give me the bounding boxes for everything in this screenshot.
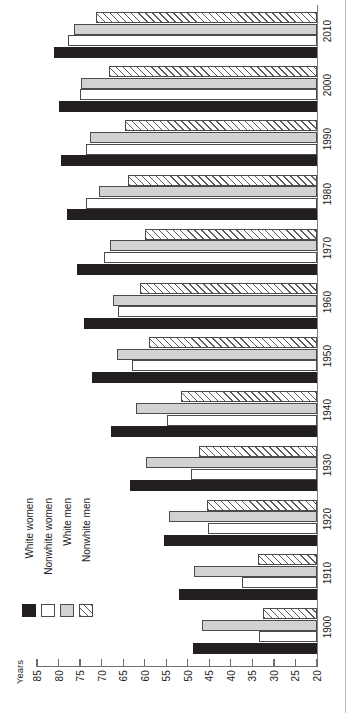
legend-swatch-white_men bbox=[60, 604, 74, 617]
value-axis-tick-label: 50 bbox=[183, 670, 194, 682]
bar-nonwhite_women-1960 bbox=[118, 306, 317, 317]
value-axis-tick bbox=[252, 659, 253, 667]
category-axis-label-1990: 1990 bbox=[322, 128, 333, 150]
bar-white_men-2010 bbox=[74, 24, 317, 35]
value-axis-tick bbox=[295, 659, 296, 667]
bar-nonwhite_men-1990 bbox=[125, 120, 317, 131]
bar-nonwhite_women-1970 bbox=[104, 252, 317, 263]
value-axis-tick bbox=[230, 659, 231, 667]
bar-white_men-1920 bbox=[169, 511, 317, 522]
bar-white_women-2000 bbox=[59, 101, 317, 112]
bar-white_women-1930 bbox=[130, 480, 317, 491]
category-axis-label-1980: 1980 bbox=[322, 183, 333, 205]
bar-nonwhite_men-2010 bbox=[96, 12, 317, 23]
value-axis-tick bbox=[316, 659, 317, 667]
bar-white_women-1950 bbox=[92, 372, 317, 383]
legend-swatch-nonwhite_men bbox=[79, 604, 93, 617]
bar-nonwhite_men-1900 bbox=[263, 608, 317, 619]
value-axis-tick-label: 65 bbox=[118, 670, 129, 682]
value-axis-tick bbox=[101, 659, 102, 667]
bar-nonwhite_women-1900 bbox=[259, 631, 317, 642]
bar-nonwhite_women-1920 bbox=[208, 523, 317, 534]
bar-white_women-1900 bbox=[193, 643, 317, 654]
bar-white_men-1960 bbox=[113, 295, 317, 306]
value-axis-tick-label: 25 bbox=[290, 670, 301, 682]
bar-nonwhite_men-1940 bbox=[181, 391, 317, 402]
bar-nonwhite_men-1920 bbox=[207, 500, 317, 511]
value-axis-tick bbox=[123, 659, 124, 667]
category-axis-line bbox=[317, 5, 318, 660]
bar-nonwhite_men-1970 bbox=[145, 229, 317, 240]
bar-white_men-1940 bbox=[136, 403, 317, 414]
category-axis-label-1960: 1960 bbox=[322, 291, 333, 313]
bar-white_women-1910 bbox=[179, 589, 317, 600]
value-axis-tick-label: 20 bbox=[312, 670, 323, 682]
chart-page: Years 8580757065605550454035302520190019… bbox=[0, 0, 349, 713]
bar-white_men-1970 bbox=[110, 240, 317, 251]
value-axis-tick-label: 35 bbox=[247, 670, 258, 682]
bar-white_men-1990 bbox=[90, 132, 317, 143]
bar-white_men-1980 bbox=[99, 186, 317, 197]
value-axis-tick-label: 55 bbox=[161, 670, 172, 682]
bar-nonwhite_men-1960 bbox=[140, 283, 317, 294]
value-axis-tick-label: 60 bbox=[140, 670, 151, 682]
bar-white_women-1920 bbox=[164, 535, 317, 546]
bar-nonwhite_men-1930 bbox=[199, 446, 317, 457]
bar-white_women-1960 bbox=[84, 318, 317, 329]
bar-white_women-1980 bbox=[67, 209, 317, 220]
legend-label-nonwhite_women: Nonwhite women bbox=[43, 498, 54, 575]
category-axis-label-1900: 1900 bbox=[322, 616, 333, 638]
value-axis-tick bbox=[209, 659, 210, 667]
category-axis-label-1940: 1940 bbox=[322, 399, 333, 421]
value-axis-tick-label: 45 bbox=[204, 670, 215, 682]
bar-nonwhite_women-2000 bbox=[80, 89, 317, 100]
category-axis-label-1920: 1920 bbox=[322, 508, 333, 530]
bar-nonwhite_women-1990 bbox=[86, 144, 317, 155]
value-axis-tick-label: 75 bbox=[75, 670, 86, 682]
value-axis-tick bbox=[79, 659, 80, 667]
bar-white_men-1910 bbox=[194, 566, 317, 577]
bar-nonwhite_women-1980 bbox=[86, 198, 317, 209]
value-axis-tick-label: 30 bbox=[269, 670, 280, 682]
bar-nonwhite_women-1930 bbox=[191, 469, 317, 480]
bar-nonwhite_men-1950 bbox=[149, 337, 317, 348]
bar-nonwhite_men-2000 bbox=[109, 66, 317, 77]
legend-label-white_women: White women bbox=[24, 498, 35, 559]
category-axis-label-1950: 1950 bbox=[322, 345, 333, 367]
value-axis-tick bbox=[187, 659, 188, 667]
bar-white_men-1950 bbox=[117, 349, 317, 360]
category-axis-label-1910: 1910 bbox=[322, 562, 333, 584]
legend-label-white_men: White men bbox=[62, 498, 73, 546]
legend-label-nonwhite_men: Nonwhite men bbox=[81, 498, 92, 562]
value-axis-tick-label: 85 bbox=[32, 670, 43, 682]
value-axis-tick-label: 40 bbox=[226, 670, 237, 682]
bar-white_women-1990 bbox=[61, 155, 317, 166]
bar-nonwhite_women-2010 bbox=[68, 35, 317, 46]
category-axis-label-1930: 1930 bbox=[322, 454, 333, 476]
bar-nonwhite_men-1980 bbox=[128, 175, 317, 186]
legend-swatch-nonwhite_women bbox=[41, 604, 55, 617]
bar-white_men-1900 bbox=[202, 620, 317, 631]
bar-nonwhite_women-1940 bbox=[167, 415, 317, 426]
value-axis-tick bbox=[36, 659, 37, 667]
value-axis-tick bbox=[166, 659, 167, 667]
value-axis-tick bbox=[58, 659, 59, 667]
category-axis-label-1970: 1970 bbox=[322, 237, 333, 259]
value-axis-title: Years bbox=[14, 660, 25, 684]
bar-white_women-1970 bbox=[77, 264, 317, 275]
value-axis-tick bbox=[144, 659, 145, 667]
category-axis-label-2010: 2010 bbox=[322, 20, 333, 42]
value-axis-tick-label: 70 bbox=[97, 670, 108, 682]
bar-white_men-1930 bbox=[146, 457, 317, 468]
value-axis-tick-label: 80 bbox=[54, 670, 65, 682]
bar-white_women-2010 bbox=[54, 47, 317, 58]
bar-nonwhite_men-1910 bbox=[258, 554, 317, 565]
category-axis-label-2000: 2000 bbox=[322, 74, 333, 96]
value-axis-tick bbox=[273, 659, 274, 667]
bar-white_men-2000 bbox=[81, 78, 317, 89]
legend-swatch-white_women bbox=[22, 604, 36, 617]
bar-white_women-1940 bbox=[111, 426, 317, 437]
bar-nonwhite_women-1950 bbox=[132, 360, 317, 371]
bar-nonwhite_women-1910 bbox=[242, 577, 317, 588]
